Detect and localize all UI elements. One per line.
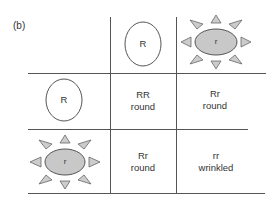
genotype: Rr	[121, 150, 165, 162]
allele-symbol: R	[133, 38, 153, 50]
punnett-cell: rr wrinkled	[188, 150, 244, 174]
allele-symbol: R	[54, 94, 74, 106]
phenotype: round	[121, 101, 165, 113]
allele-symbol: r	[206, 36, 226, 48]
punnett-cell: RR round	[121, 89, 165, 113]
genotype: Rr	[190, 88, 240, 100]
phenotype: round	[190, 100, 240, 112]
phenotype: round	[121, 162, 165, 174]
punnett-cell: Rr round	[121, 150, 165, 174]
genotype: RR	[121, 89, 165, 101]
punnett-cell: Rr round	[190, 88, 240, 112]
allele-symbol: r	[55, 156, 75, 168]
phenotype: wrinkled	[188, 162, 244, 174]
genotype: rr	[188, 150, 244, 162]
